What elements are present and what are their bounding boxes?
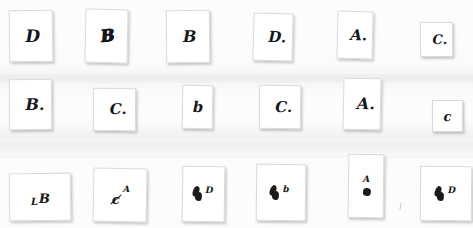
handwritten-answer: b [193, 100, 204, 115]
scan-smudge-band [0, 154, 473, 158]
corrected-answer: A [363, 175, 370, 184]
answer-slip[interactable]: D [420, 166, 472, 221]
answer-slip[interactable]: D. [252, 12, 293, 61]
corrected-answer: b [283, 185, 289, 194]
ink-blot-crossed-answer [363, 188, 371, 196]
answer-slip[interactable]: A. [336, 11, 373, 60]
handwritten-answer: D. [268, 30, 286, 45]
corrected-answer: A [123, 185, 130, 194]
handwritten-answer: C. [433, 33, 448, 46]
answer-slip[interactable]: B [166, 10, 211, 63]
answer-slip[interactable]: A. [343, 78, 382, 131]
answer-slip[interactable]: B [84, 9, 128, 64]
handwritten-answer: D [25, 28, 40, 45]
handwritten-answer: C. [110, 102, 127, 117]
handwritten-answer: C. [275, 100, 292, 115]
answer-slip[interactable]: C. [420, 22, 453, 57]
answer-slip[interactable]: b [182, 85, 214, 129]
handwritten-answer: B [183, 29, 197, 45]
handwritten-answer: A. [357, 96, 375, 112]
answer-slip[interactable]: C. [259, 85, 301, 129]
answer-slip[interactable]: D [182, 166, 226, 223]
answer-slip[interactable]: c [432, 100, 463, 132]
answer-slip[interactable]: cA [93, 168, 148, 223]
answer-slip[interactable]: A [348, 154, 385, 218]
handwritten-answer: c [444, 110, 452, 123]
handwritten-answer: B [39, 192, 50, 205]
handwritten-answer: A. [350, 28, 367, 43]
corrected-answer: D [448, 186, 456, 195]
handwritten-answer-prefix: L [31, 197, 38, 207]
scan-smudge-band [0, 142, 473, 153]
answer-slip[interactable]: D [9, 10, 54, 63]
scan-smudge-band [0, 74, 473, 83]
answer-slip[interactable]: b [256, 164, 307, 222]
handwritten-answer: B. [25, 97, 44, 113]
answer-slip[interactable]: B. [9, 79, 52, 130]
corrected-answer: D [205, 186, 213, 195]
scanned-answer-sheet: DBBD.A.C.B.C.bC.A.cLBcADbAD [0, 0, 473, 228]
faint-pencil-tick-artifact [399, 203, 401, 210]
handwritten-answer: B [100, 27, 115, 45]
answer-slip[interactable]: LB [9, 173, 72, 222]
answer-slip[interactable]: C. [93, 88, 136, 131]
